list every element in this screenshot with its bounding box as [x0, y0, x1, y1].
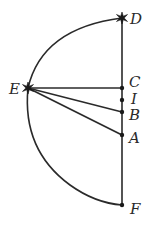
segment-e-a: [28, 88, 122, 135]
label-b: B: [128, 106, 140, 124]
point-a: [120, 133, 124, 137]
label-e: E: [8, 80, 20, 98]
label-d: D: [129, 10, 142, 28]
point-b: [120, 110, 124, 114]
point-c: [120, 86, 124, 90]
label-c: C: [129, 73, 141, 91]
point-f: [120, 203, 124, 207]
label-a: A: [127, 129, 140, 147]
label-f: F: [129, 200, 141, 218]
segment-e-b: [28, 88, 122, 112]
diagram: D E C I B A F: [0, 0, 152, 226]
point-i: [120, 98, 124, 102]
